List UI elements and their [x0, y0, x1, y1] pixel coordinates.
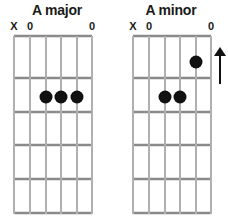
fretboard-a-minor	[133, 36, 211, 214]
finger-dot	[40, 91, 53, 104]
fretboard-graphics	[0, 0, 228, 222]
finger-dot	[190, 56, 203, 69]
finger-dot	[55, 91, 68, 104]
finger-dot	[159, 91, 172, 104]
fretboard-a-major	[14, 36, 92, 214]
finger-dot	[174, 91, 187, 104]
finger-dot	[71, 91, 84, 104]
up-arrow-icon	[214, 47, 226, 84]
